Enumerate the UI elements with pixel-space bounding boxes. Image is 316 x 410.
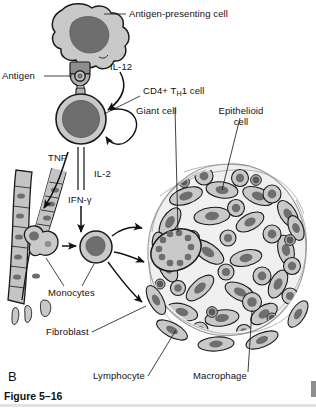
th1-nucleus xyxy=(63,101,100,138)
il2-loop-arrow xyxy=(106,109,137,144)
ifn-gamma-arrow xyxy=(78,147,84,232)
cd4-prefix: CD4+ T xyxy=(143,85,176,96)
label-antigen-presenting-cell: Antigen-presenting cell xyxy=(129,8,228,19)
label-cd4-th1-cell: CD4+ TH1 cell xyxy=(143,85,205,99)
figure-caption: Figure 5–16 xyxy=(4,390,62,402)
page-edge-mark xyxy=(311,381,316,397)
label-ifn-gamma: IFN-γ xyxy=(68,194,92,205)
cd4-th1-cell-graphic xyxy=(56,94,106,144)
monocytes-leader-lines xyxy=(46,258,94,286)
mhc-antigen-complex xyxy=(70,62,90,96)
label-lymphocyte: Lymphocyte xyxy=(93,370,145,381)
label-antigen: Antigen xyxy=(2,70,35,81)
apc-nucleus xyxy=(70,17,109,53)
epithelioid-line-2: cell xyxy=(234,116,249,127)
label-il12: IL-12 xyxy=(110,61,132,72)
epithelioid-line-1: Epithelioid xyxy=(219,105,264,116)
panel-letter: B xyxy=(8,369,17,384)
label-monocytes: Monocytes xyxy=(48,287,95,298)
extravasating-monocyte xyxy=(24,226,58,256)
il12-arrow xyxy=(108,72,124,110)
stray-cells xyxy=(12,300,51,325)
label-epithelioid-cell: Epithelioidcell xyxy=(210,105,272,127)
free-monocyte xyxy=(80,231,112,263)
bottom-rule xyxy=(0,404,316,407)
granuloma-diagram xyxy=(0,0,316,410)
cd4-suffix: 1 cell xyxy=(182,85,205,96)
monocyte-to-granuloma-arrows xyxy=(108,227,144,302)
label-il2: IL-2 xyxy=(94,168,111,179)
antigen-presenting-cell-graphic xyxy=(52,4,129,69)
label-tnf: TNF xyxy=(48,152,67,163)
label-giant-cell: Giant cell xyxy=(136,105,177,116)
label-fibroblast: Fibroblast xyxy=(46,326,89,337)
label-macrophage: Macrophage xyxy=(193,370,247,381)
figure-panel-b: Antigen-presenting cell Antigen IL-12 CD… xyxy=(0,0,316,410)
